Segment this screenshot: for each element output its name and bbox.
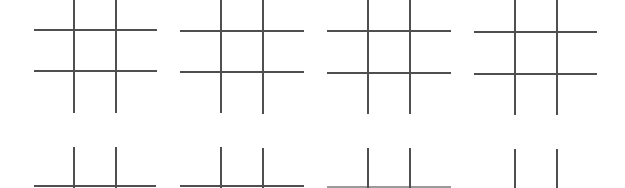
- grid-vertical-line: [367, 148, 369, 188]
- grid-horizontal-line: [180, 185, 304, 187]
- grid-vertical-line: [556, 0, 558, 115]
- grid-vertical-line: [514, 0, 516, 115]
- grid-vertical-line: [262, 0, 264, 114]
- grid-vertical-line: [220, 147, 222, 188]
- grid-horizontal-line: [327, 30, 451, 32]
- grid-horizontal-line: [327, 72, 451, 74]
- grid-horizontal-line: [34, 29, 157, 31]
- grid-vertical-line: [409, 148, 411, 188]
- grid-horizontal-line: [180, 71, 304, 73]
- grid-vertical-line: [73, 0, 75, 113]
- grid-vertical-line: [220, 0, 222, 113]
- grid-horizontal-line: [180, 30, 304, 32]
- grid-vertical-line: [514, 149, 516, 188]
- grid-horizontal-line: [474, 73, 597, 75]
- grid-vertical-line: [556, 149, 558, 188]
- grid-horizontal-line: [34, 70, 157, 72]
- grid-vertical-line: [115, 147, 117, 188]
- grid-vertical-line: [367, 0, 369, 114]
- grid-horizontal-line: [474, 31, 597, 33]
- grid-horizontal-line: [327, 186, 451, 188]
- grid-horizontal-line: [34, 185, 156, 187]
- grid-vertical-line: [73, 147, 75, 188]
- grid-vertical-line: [262, 148, 264, 188]
- grid-vertical-line: [115, 0, 117, 113]
- grid-vertical-line: [409, 0, 411, 114]
